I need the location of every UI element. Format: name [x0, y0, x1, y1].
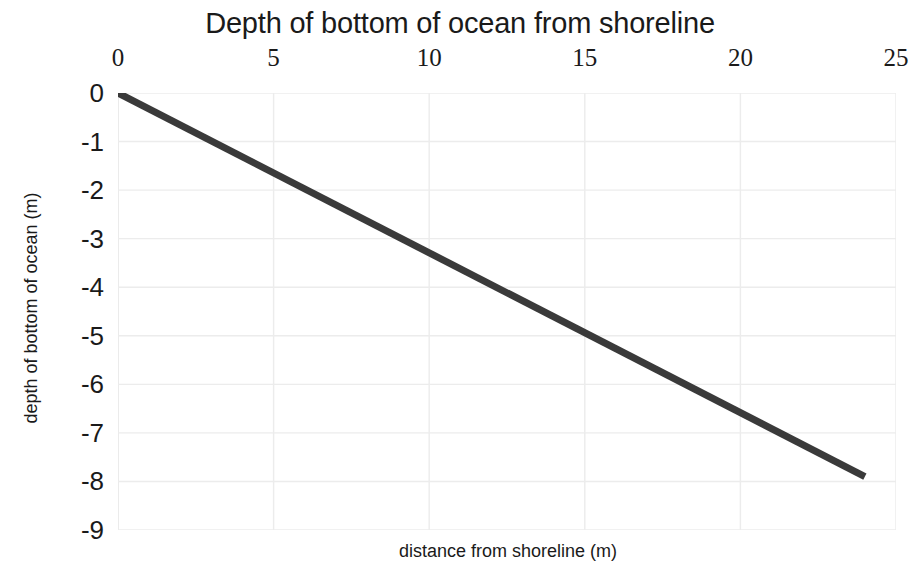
plot-area: [118, 93, 896, 530]
horizontal-gridlines: [118, 93, 896, 530]
y-axis-tick-label: -9: [81, 516, 104, 544]
chart-page: Depth of bottom of ocean from shoreline …: [0, 0, 920, 574]
y-axis-tick-label: -4: [81, 273, 104, 301]
y-axis-tick-labels: 0-1-2-3-4-5-6-7-8-9: [0, 0, 115, 574]
y-axis-tick-label: -1: [81, 128, 104, 156]
y-axis-tick-label: -6: [81, 370, 104, 398]
x-axis-tick-label: 15: [572, 44, 597, 72]
data-series-group: [118, 93, 865, 477]
y-axis-tick-label: -8: [81, 467, 104, 495]
vertical-gridlines: [118, 93, 896, 530]
y-axis-tick-label: -7: [81, 419, 104, 447]
y-axis-tick-label: -2: [81, 176, 104, 204]
y-axis-tick-label: -3: [81, 225, 104, 253]
x-axis-tick-label: 5: [267, 44, 280, 72]
x-axis-tick-label: 20: [728, 44, 753, 72]
data-series-line: [118, 93, 865, 477]
chart-title: Depth of bottom of ocean from shoreline: [0, 6, 920, 40]
y-axis-tick-label: -5: [81, 322, 104, 350]
y-axis-tick-label: 0: [90, 79, 104, 107]
x-axis-tick-label: 25: [884, 44, 909, 72]
y-axis-title: depth of bottom of ocean (m): [21, 148, 41, 468]
plot-svg: [118, 93, 896, 530]
x-axis-title: distance from shoreline (m): [118, 540, 898, 562]
x-axis-top-tick-labels: 0510152025: [0, 44, 920, 74]
x-axis-tick-label: 10: [417, 44, 442, 72]
